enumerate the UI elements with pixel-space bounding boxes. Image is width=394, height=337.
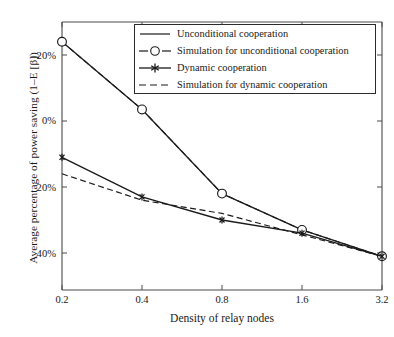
- series-line: [62, 157, 382, 256]
- chart-figure: Average percentage of power saving (1–E …: [0, 0, 394, 337]
- legend-label: Simulation for dynamic cooperation: [175, 76, 327, 93]
- legend-swatch-solid-asterisk: [135, 59, 175, 76]
- legend-swatch-solid-line: [135, 25, 175, 42]
- legend-item: Dynamic cooperation: [135, 59, 375, 76]
- legend-swatch-dashed-circle: [135, 42, 175, 59]
- legend-label: Dynamic cooperation: [175, 59, 267, 76]
- data-point-marker: [59, 154, 64, 161]
- data-point-marker: [138, 105, 147, 114]
- legend-item: Simulation for unconditional cooperation: [135, 42, 375, 59]
- data-point-marker: [58, 37, 67, 46]
- legend-label: Simulation for unconditional cooperation: [175, 42, 349, 59]
- legend-item: Unconditional cooperation: [135, 25, 375, 42]
- series-line: [62, 174, 382, 256]
- legend-swatch-dashed-line: [135, 76, 175, 93]
- data-point-marker: [218, 189, 227, 198]
- legend-label: Unconditional cooperation: [175, 25, 288, 42]
- chart-legend: Unconditional cooperation Simulation for…: [134, 24, 376, 94]
- legend-item: Simulation for dynamic cooperation: [135, 76, 375, 93]
